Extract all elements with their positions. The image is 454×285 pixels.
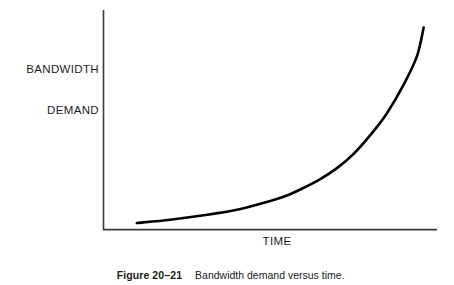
figure-caption-text: Bandwidth demand versus time. — [195, 269, 344, 281]
exponential-curve — [137, 28, 424, 223]
y-axis-label-line1: BANDWIDTH — [8, 63, 99, 77]
y-axis-label: BANDWIDTH DEMAND — [8, 36, 99, 144]
x-axis-label: TIME — [218, 235, 336, 249]
y-axis-label-line2: DEMAND — [8, 104, 99, 118]
figure-caption-number: Figure 20–21 — [117, 269, 182, 281]
figure-caption: Figure 20–21Bandwidth demand versus time… — [105, 256, 345, 285]
